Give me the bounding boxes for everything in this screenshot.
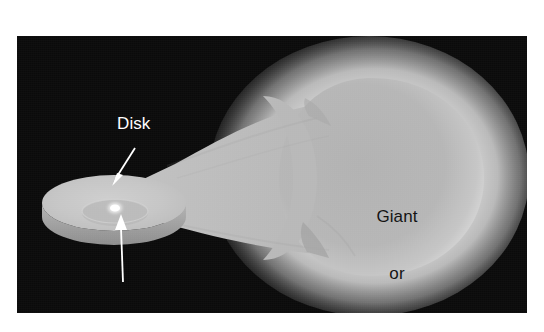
label-disk: Disk <box>117 114 150 133</box>
label-giant: Giant or supergiant <box>317 169 477 313</box>
figure-root: Disk White dwarf Giant or supergiant <box>0 0 544 332</box>
label-giant-line2: or <box>317 264 477 283</box>
label-giant-line1: Giant <box>317 207 477 226</box>
white-dwarf-star <box>110 204 120 211</box>
scene-panel: Disk White dwarf Giant or supergiant <box>17 36 527 313</box>
label-white-dwarf: White dwarf <box>115 291 159 313</box>
